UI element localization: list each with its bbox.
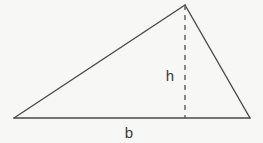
triangle-diagram: h b [0, 0, 263, 143]
height-label: h [166, 67, 174, 84]
diagram-canvas: h b [0, 0, 263, 143]
base-label: b [125, 124, 133, 141]
